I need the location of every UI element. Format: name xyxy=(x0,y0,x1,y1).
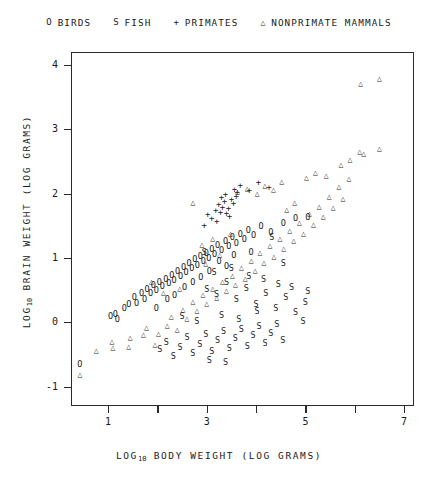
x-axis-tick-label: 5 xyxy=(290,416,320,427)
y-axis-tick-label: -1 xyxy=(36,381,58,392)
circle-icon: O xyxy=(46,18,51,27)
triangle-icon: △ xyxy=(260,18,265,27)
legend-label-nonprimate-mammals: NONPRIMATE MAMMALS xyxy=(271,17,392,28)
x-axis-tick xyxy=(157,406,158,413)
x-axis-tick-label: 1 xyxy=(93,416,123,427)
y-axis-label: LOG10 BRAIN WEIGHT (LOG GRAMS) xyxy=(21,52,34,392)
legend-entry-primates: + PRIMATES xyxy=(173,17,238,28)
x-axis-tick xyxy=(404,406,405,413)
x-axis-tick xyxy=(108,406,109,413)
x-axis-tick-label: 7 xyxy=(389,416,419,427)
letter-s-icon: S xyxy=(113,18,118,27)
y-axis-tick-label: 4 xyxy=(36,59,58,70)
y-axis-label-prefix: LOG xyxy=(21,306,32,328)
y-axis-tick-label: 3 xyxy=(36,123,58,134)
legend-entry-nonprimate-mammals: △ NONPRIMATE MAMMALS xyxy=(260,17,391,28)
x-axis-tick-label: 3 xyxy=(192,416,222,427)
legend-label-fish: FISH xyxy=(125,17,152,28)
legend-label-primates: PRIMATES xyxy=(185,17,239,28)
y-axis-tick xyxy=(64,194,71,195)
y-axis-tick xyxy=(64,65,71,66)
y-axis-tick-label: 1 xyxy=(36,252,58,263)
y-axis-label-subscript: 10 xyxy=(26,298,34,306)
y-axis-tick xyxy=(64,258,71,259)
legend-label-birds: BIRDS xyxy=(58,17,92,28)
legend-entry-birds: O BIRDS xyxy=(46,17,91,28)
x-axis-label: LOG10 BODY WEIGHT (LOG GRAMS) xyxy=(0,450,438,463)
legend-entry-fish: S FISH xyxy=(113,17,151,28)
y-axis-tick-label: 2 xyxy=(36,188,58,199)
x-axis-tick xyxy=(207,406,208,413)
x-axis-label-rest: BODY WEIGHT (LOG GRAMS) xyxy=(146,450,322,461)
y-axis-tick xyxy=(64,387,71,388)
y-axis-tick xyxy=(64,322,71,323)
x-axis-tick xyxy=(305,406,306,413)
chart-legend: O BIRDS S FISH + PRIMATES △ NONPRIMATE M… xyxy=(0,14,438,30)
x-axis-label-prefix: LOG xyxy=(116,450,138,461)
plus-icon: + xyxy=(173,18,178,27)
x-axis-tick xyxy=(355,406,356,413)
y-axis-tick xyxy=(64,129,71,130)
y-axis-label-rest: BRAIN WEIGHT (LOG GRAMS) xyxy=(21,115,32,298)
plot-area xyxy=(71,52,414,406)
y-axis-tick-label: 0 xyxy=(36,316,58,327)
x-axis-tick xyxy=(256,406,257,413)
